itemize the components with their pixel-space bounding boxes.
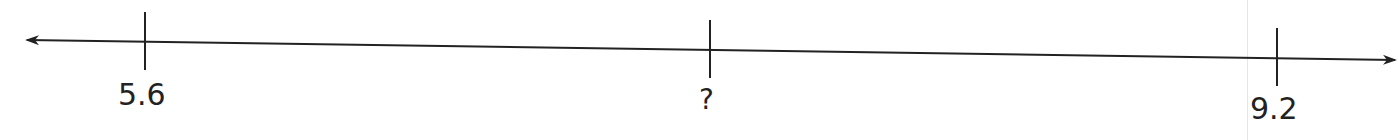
number-line: [0, 0, 1399, 140]
tick-label-unknown: ?: [699, 86, 714, 114]
tick-label-5-6: 5.6: [118, 80, 166, 110]
tick-label-9-2: 9.2: [1250, 94, 1298, 124]
